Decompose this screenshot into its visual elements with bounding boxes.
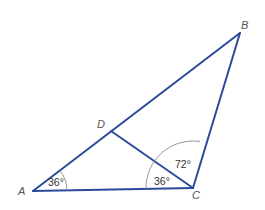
triangle-diagram: A B C D 36° 36° 72° (0, 0, 265, 210)
angle-label-DCB: 72° (175, 158, 191, 170)
vertex-label-D: D (97, 118, 105, 130)
vertex-label-A: A (17, 185, 25, 197)
segment-CA (33, 188, 193, 191)
vertex-label-B: B (241, 19, 248, 31)
angle-label-ACD: 36° (154, 175, 170, 187)
segment-BC (193, 33, 240, 188)
segment-AB (33, 33, 240, 191)
vertex-label-C: C (192, 189, 200, 201)
angle-label-A: 36° (48, 176, 64, 188)
